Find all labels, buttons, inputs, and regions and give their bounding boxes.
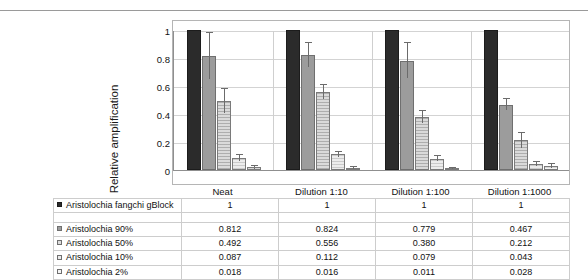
bar-group	[372, 31, 471, 170]
legend-label: Aristolochia fangchi gBlock	[66, 200, 174, 210]
table-header-corner	[54, 185, 182, 199]
table-cell: 0.112	[279, 251, 376, 265]
error-bar-cap	[419, 110, 426, 111]
table-column-header: Dilution 1:10	[279, 185, 376, 199]
y-tick-label: 0.8	[144, 54, 170, 65]
table-spacer-cell	[54, 213, 182, 223]
error-bar-lower	[407, 61, 408, 79]
table-row-label: Aristolochia fangchi gBlock	[54, 199, 182, 213]
y-tick-label: 0.6	[144, 82, 170, 93]
table-cell: 1	[473, 199, 570, 213]
table-header-row: NeatDilution 1:10Dilution 1:100Dilution …	[54, 185, 570, 199]
bar	[385, 30, 399, 170]
error-bar	[224, 89, 225, 101]
error-bar-lower	[551, 166, 552, 168]
error-bar-cap	[548, 163, 555, 164]
error-bar-cap	[404, 42, 411, 43]
error-bar-lower	[209, 56, 210, 79]
plot-area	[173, 31, 569, 171]
table-row-label: Aristolochia 2%	[54, 265, 182, 279]
bar	[316, 92, 330, 170]
error-bar-cap	[434, 155, 441, 156]
table-row: Aristolochia 90%0.8120.8240.7790.467	[54, 223, 570, 237]
legend-label: Aristolochia 90%	[66, 224, 133, 234]
legend-swatch-icon	[57, 269, 62, 274]
bar	[499, 105, 513, 170]
bar-group	[174, 31, 273, 170]
legend-label: Aristolochia 2%	[66, 267, 128, 277]
table-cell: 0.812	[182, 223, 279, 237]
bar	[415, 117, 429, 170]
table-cell: 0.087	[182, 251, 279, 265]
error-bar	[521, 133, 522, 141]
table-row: Aristolochia 2%0.0180.0160.0110.028	[54, 265, 570, 279]
error-bar-lower	[353, 168, 354, 169]
bar	[187, 30, 201, 170]
figure-container: Relative amplification 00.20.40.60.81 Ne…	[0, 0, 588, 280]
error-bar-cap	[503, 98, 510, 99]
error-bar-lower	[452, 168, 453, 169]
error-bar-lower	[308, 55, 309, 67]
table-cell: 0.018	[182, 265, 279, 279]
table-cell: 0.492	[182, 237, 279, 251]
error-bar-lower	[437, 159, 438, 162]
error-bar-cap	[251, 165, 258, 166]
error-bar-cap	[236, 154, 243, 155]
error-bar-cap	[518, 132, 525, 133]
bar	[301, 55, 315, 170]
table-row-label: Aristolochia 50%	[54, 237, 182, 251]
error-bar-cap	[533, 161, 540, 162]
table-cell: 0.380	[376, 237, 473, 251]
table-cell: 0.011	[376, 265, 473, 279]
y-axis-title-wrap: Relative amplification	[108, 30, 124, 180]
table-column-header: Dilution 1:1000	[473, 185, 570, 199]
table-row: Aristolochia 10%0.0870.1120.0790.043	[54, 251, 570, 265]
table-column-header: Neat	[182, 185, 279, 199]
table-cell: 0.043	[473, 251, 570, 265]
table-cell: 0.079	[376, 251, 473, 265]
error-bar-lower	[521, 140, 522, 148]
y-tick-label: 0	[144, 166, 170, 177]
error-bar-lower	[239, 158, 240, 161]
y-tick-label: 1	[144, 26, 170, 37]
table-spacer-row	[54, 213, 570, 223]
table-row-label: Aristolochia 10%	[54, 251, 182, 265]
table-cell: 1	[376, 199, 473, 213]
error-bar-cap	[206, 32, 213, 33]
error-bar	[308, 43, 309, 55]
error-bar-cap	[221, 88, 228, 89]
error-bar	[407, 43, 408, 61]
table-cell: 0.028	[473, 265, 570, 279]
error-bar	[209, 33, 210, 56]
legend-label: Aristolochia 10%	[66, 253, 133, 263]
table-column-header: Dilution 1:100	[376, 185, 473, 199]
table-spacer-cell	[473, 213, 570, 223]
table-spacer-cell	[279, 213, 376, 223]
table-cell: 0.212	[473, 237, 570, 251]
error-bar-lower	[224, 101, 225, 113]
data-table: NeatDilution 1:10Dilution 1:100Dilution …	[53, 185, 570, 280]
error-bar-lower	[422, 117, 423, 123]
legend-swatch-icon	[57, 255, 62, 260]
table-cell: 0.467	[473, 223, 570, 237]
error-bar-lower	[254, 168, 255, 169]
error-bar	[323, 85, 324, 92]
bar-group	[273, 31, 372, 170]
error-bar-cap	[335, 151, 342, 152]
table-cell: 0.779	[376, 223, 473, 237]
table-cell: 0.556	[279, 237, 376, 251]
table-cell: 0.824	[279, 223, 376, 237]
table-cell: 0.016	[279, 265, 376, 279]
legend-swatch-icon	[57, 240, 62, 245]
error-bar-lower	[536, 164, 537, 166]
error-bar-cap	[350, 166, 357, 167]
legend-label: Aristolochia 50%	[66, 238, 133, 248]
table-cell: 1	[182, 199, 279, 213]
table-row: Aristolochia fangchi gBlock1111	[54, 199, 570, 213]
error-bar-cap	[305, 42, 312, 43]
error-bar-cap	[320, 84, 327, 85]
legend-swatch-icon	[57, 226, 62, 231]
table-cell: 1	[279, 199, 376, 213]
error-bar-lower	[323, 92, 324, 99]
error-bar-lower	[506, 105, 507, 110]
